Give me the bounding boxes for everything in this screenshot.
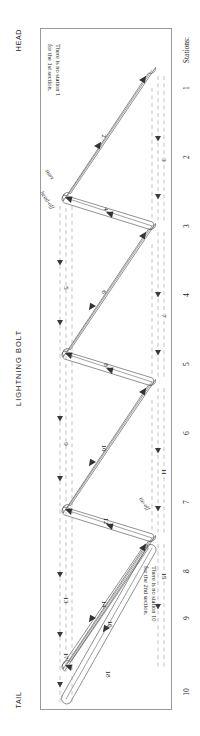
segment-label-2: 2 bbox=[100, 134, 108, 138]
station-tick-8: 8 bbox=[182, 569, 191, 573]
stations-axis-label: Stations: bbox=[182, 37, 191, 63]
note-first-section-line1: There is no station 1 bbox=[54, 44, 62, 96]
dash-label-11: 11 bbox=[160, 469, 168, 476]
note-second-section-line2: for the 2nd section. bbox=[142, 566, 150, 621]
station-tick-4: 4 bbox=[182, 293, 191, 297]
note-second-section-line1: There is no station 10 bbox=[150, 566, 158, 621]
station-tick-1: 1 bbox=[182, 86, 191, 90]
left-rail: HEAD LIGHTNING BOLT TAIL bbox=[0, 0, 36, 736]
tail-label: TAIL bbox=[15, 691, 22, 708]
segment-label-16: 16 bbox=[106, 621, 114, 629]
segment-label-6: 6 bbox=[100, 290, 108, 294]
note-second-section: There is no station 10 for the 2nd secti… bbox=[142, 566, 158, 621]
dash-label-13: 13 bbox=[62, 597, 70, 605]
stations-axis: Stations: 1 2 3 4 5 6 7 8 9 10 bbox=[172, 0, 200, 736]
dash-label-15: 15 bbox=[160, 573, 168, 581]
segment-label-10: 10 bbox=[100, 445, 108, 453]
dash-label-3: 3 bbox=[160, 158, 168, 162]
station-tick-10: 10 bbox=[182, 688, 191, 696]
segment-label-14: 14 bbox=[100, 601, 108, 609]
head-label: HEAD bbox=[15, 29, 22, 51]
note-first-section-line2: for the 1st section. bbox=[46, 44, 54, 96]
station-tick-9: 9 bbox=[182, 616, 191, 620]
station-tick-3: 3 bbox=[182, 224, 191, 228]
dash-label-17: 17 bbox=[62, 653, 70, 661]
segment-label-8: 8 bbox=[102, 363, 110, 367]
diagram-title: LIGHTNING BOLT bbox=[14, 330, 23, 406]
station-tick-7: 7 bbox=[182, 500, 191, 504]
station-tick-6: 6 bbox=[182, 431, 191, 435]
note-first-section: There is no station 1 for the 1st sectio… bbox=[46, 44, 62, 96]
segment-label-12: 12 bbox=[102, 518, 110, 526]
dash-label-9: 9 bbox=[62, 442, 70, 446]
station-tick-5: 5 bbox=[182, 362, 191, 366]
segment-label-4: 4 bbox=[102, 207, 110, 211]
lightning-bolt-diagram-page: HEAD LIGHTNING BOLT TAIL bbox=[0, 0, 200, 736]
dash-label-5: 5 bbox=[62, 286, 70, 290]
segment-label-18: 18 bbox=[104, 671, 112, 679]
dash-label-7: 7 bbox=[160, 314, 168, 318]
station-tick-2: 2 bbox=[182, 155, 191, 159]
